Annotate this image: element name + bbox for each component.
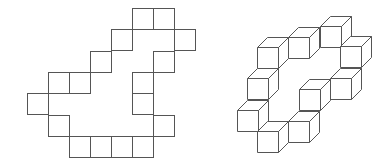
cube [300, 80, 331, 111]
cube [258, 122, 289, 153]
cube-ring-figure [0, 0, 390, 166]
cube [258, 38, 289, 69]
cube [341, 37, 372, 68]
cube [289, 28, 320, 59]
cube [331, 69, 362, 100]
cube [248, 69, 279, 100]
cube [289, 112, 320, 143]
